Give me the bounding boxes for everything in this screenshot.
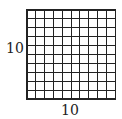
- grid-cell: [106, 90, 116, 100]
- ten-by-ten-grid: [26, 9, 116, 100]
- height-label: 10: [6, 41, 24, 55]
- width-label: 10: [61, 103, 79, 117]
